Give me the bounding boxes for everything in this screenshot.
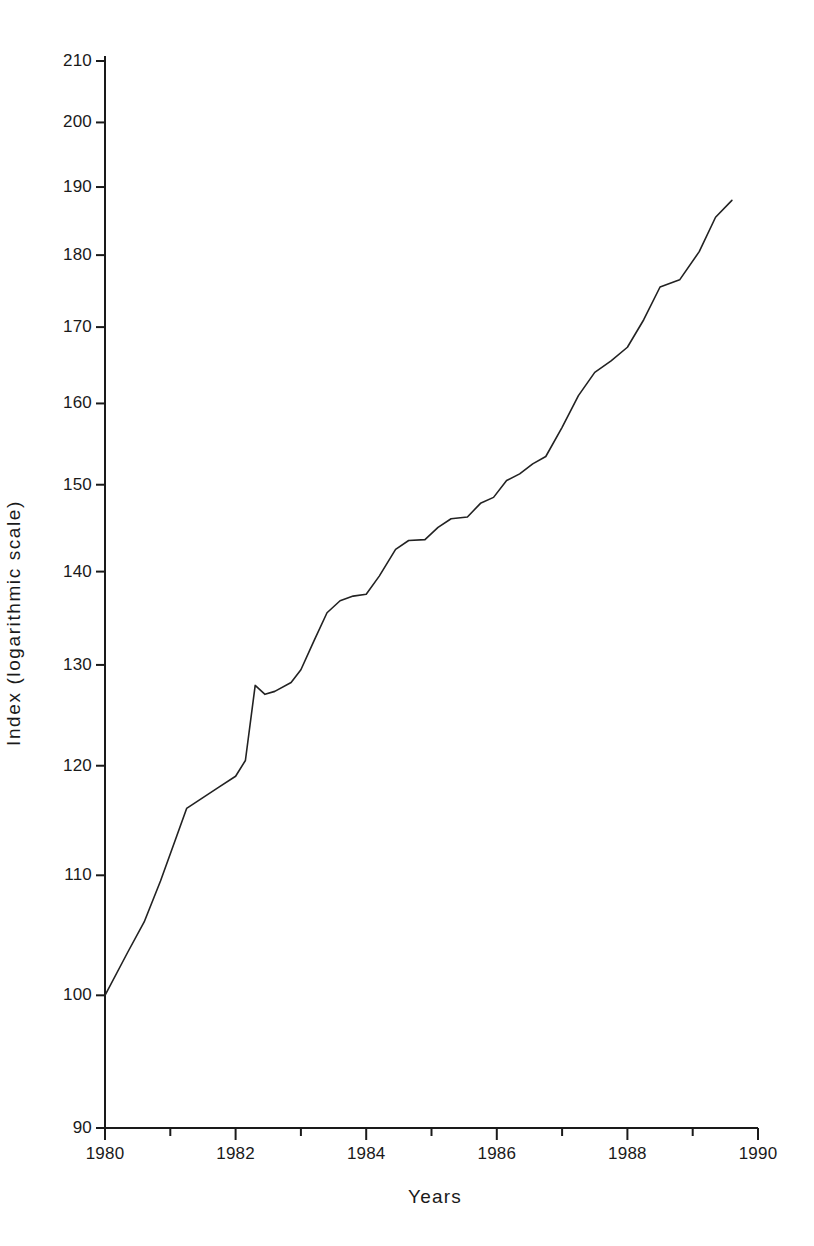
y-axis-ticks xyxy=(96,61,105,1128)
x-tick-label: 1990 xyxy=(739,1144,778,1164)
y-tick-label: 100 xyxy=(40,985,92,1005)
y-tick-label: 90 xyxy=(40,1118,92,1138)
x-tick-label: 1988 xyxy=(608,1144,647,1164)
x-axis-ticks xyxy=(105,1128,758,1140)
y-tick-label: 160 xyxy=(40,393,92,413)
y-tick-label: 150 xyxy=(40,475,92,495)
chart-plot-area xyxy=(0,0,814,1246)
y-tick-label: 200 xyxy=(40,112,92,132)
series-line-index xyxy=(105,200,732,995)
y-tick-label: 190 xyxy=(40,177,92,197)
chart-figure: 90100110120130140150160170180190200210 1… xyxy=(0,0,814,1246)
y-axis-title: Index (logarithmic scale) xyxy=(3,500,25,746)
y-tick-label: 110 xyxy=(40,865,92,885)
y-tick-label: 130 xyxy=(40,655,92,675)
y-tick-label: 170 xyxy=(40,317,92,337)
y-tick-label: 180 xyxy=(40,245,92,265)
y-tick-label: 210 xyxy=(40,51,92,71)
y-tick-label: 140 xyxy=(40,562,92,582)
y-axis-title-text: Index (logarithmic scale) xyxy=(3,500,25,746)
y-tick-label: 120 xyxy=(40,756,92,776)
x-axis-title: Years xyxy=(408,1186,462,1208)
x-tick-label: 1986 xyxy=(477,1144,516,1164)
x-tick-label: 1984 xyxy=(347,1144,386,1164)
x-tick-label: 1980 xyxy=(86,1144,125,1164)
x-tick-label: 1982 xyxy=(216,1144,255,1164)
